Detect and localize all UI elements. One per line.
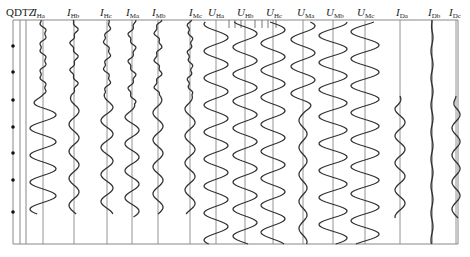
qdtz-marker-dot xyxy=(11,44,15,48)
channel-label-IDa: IDa xyxy=(396,6,408,22)
channel-label-IHa: IHa xyxy=(33,6,45,22)
channel-label-UHb: UHb xyxy=(237,6,254,22)
channel-label-IMc: IMc xyxy=(189,6,202,22)
channel-label-UMc: UMc xyxy=(357,6,374,22)
qdtz-marker-dot xyxy=(11,178,15,182)
channel-label-IHc: IHc xyxy=(100,6,112,22)
qdtz-marker-dot xyxy=(11,98,15,102)
qdtz-marker-dot xyxy=(11,125,15,129)
channel-label-UMb: UMb xyxy=(326,6,344,22)
channel-label-IDb: IDb xyxy=(428,6,440,22)
channel-label-IHb: IHb xyxy=(67,6,79,22)
oscillogram-figure: QDTZ IHaIHbIHcIMaIMbIMcUHaUHbUHcUMaUMbUM… xyxy=(0,0,470,257)
channel-label-UHc: UHc xyxy=(266,6,282,22)
waveform-IHb xyxy=(69,20,79,214)
qdtz-marker-dot xyxy=(11,210,15,214)
channel-label-IMb: IMb xyxy=(152,6,165,22)
channel-label-IDc: IDc xyxy=(449,6,461,22)
qdtz-marker-dot xyxy=(11,151,15,155)
channel-label-UMa: UMa xyxy=(297,6,314,22)
qdtz-label: QDTZ xyxy=(6,6,35,18)
waveform-canvas xyxy=(0,0,470,257)
channel-label-UHa: UHa xyxy=(208,6,224,22)
channel-label-IMa: IMa xyxy=(126,6,139,22)
qdtz-marker-dot xyxy=(11,70,15,74)
